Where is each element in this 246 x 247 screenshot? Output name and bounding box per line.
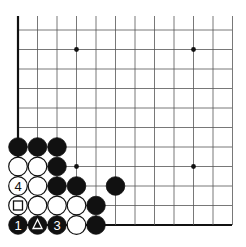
white-stone[interactable]: [28, 177, 47, 196]
star-point: [191, 164, 196, 169]
white-stone[interactable]: 4: [9, 177, 28, 196]
white-stone[interactable]: [67, 216, 86, 235]
black-stone[interactable]: [48, 138, 67, 157]
black-stone[interactable]: [48, 177, 67, 196]
white-stone[interactable]: [48, 196, 67, 215]
move-number: 1: [14, 218, 21, 233]
white-stone[interactable]: [9, 157, 28, 176]
white-stone[interactable]: [9, 196, 28, 215]
star-point: [191, 47, 196, 52]
black-stone[interactable]: [87, 196, 106, 215]
star-point: [74, 164, 79, 169]
black-stone[interactable]: [67, 177, 86, 196]
white-stone[interactable]: [28, 157, 47, 176]
go-board[interactable]: 413: [0, 0, 246, 247]
black-stone[interactable]: 1: [9, 216, 28, 235]
black-stone[interactable]: [28, 138, 47, 157]
black-stone[interactable]: 3: [48, 216, 67, 235]
black-stone[interactable]: [28, 216, 47, 235]
white-stone[interactable]: [28, 196, 47, 215]
move-number: 4: [14, 179, 21, 194]
star-point: [74, 47, 79, 52]
board-grid: [18, 16, 233, 225]
move-number: 3: [53, 218, 60, 233]
white-stone[interactable]: [67, 196, 86, 215]
black-stone[interactable]: [9, 138, 28, 157]
black-stone[interactable]: [48, 157, 67, 176]
black-stone[interactable]: [106, 177, 125, 196]
black-stone[interactable]: [87, 216, 106, 235]
